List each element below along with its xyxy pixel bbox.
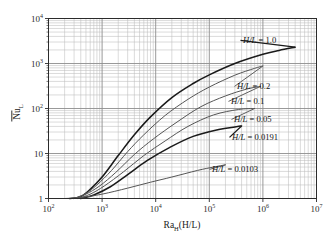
curve-label-hl-0-0191: H/L = 0.0191	[231, 132, 278, 142]
curve-label-hl-1-0: H/L = 1.0	[242, 35, 276, 45]
curve-label-hl-0-0103: H/L = 0.0103	[211, 164, 258, 174]
curve-label-hl-0-1: H/L = 0.1	[230, 96, 264, 106]
svg-text:RaH(H/L): RaH(H/L)	[164, 220, 201, 232]
curve-label-hl-0-2: H/L = 0.2	[236, 81, 270, 91]
chart-svg: 102103104105106107 110102103104 H/L = 1.…	[0, 0, 335, 244]
y-tick-label: 10	[34, 149, 44, 159]
chart-figure: 102103104105106107 110102103104 H/L = 1.…	[0, 0, 335, 244]
y-tick-label: 1	[39, 194, 44, 204]
curve-label-hl-0-05: H/L = 0.05	[233, 114, 272, 124]
x-axis-label: RaH(H/L)	[164, 220, 201, 232]
